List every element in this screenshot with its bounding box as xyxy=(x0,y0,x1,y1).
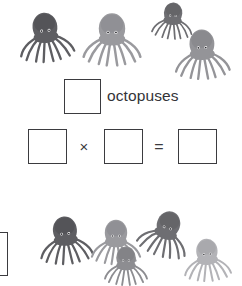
octopus-top-1 xyxy=(11,0,80,75)
octopus-bottom-5 xyxy=(175,232,239,283)
octopus-group-top xyxy=(0,0,242,78)
equals-sign: = xyxy=(149,138,169,156)
octopus-top-2 xyxy=(79,6,145,68)
octopus-bottom-4 xyxy=(100,242,152,286)
partial-answer-box-cropped[interactable] xyxy=(0,232,8,276)
multiplication-sign: × xyxy=(74,138,94,155)
count-answer-box[interactable] xyxy=(64,79,101,114)
octopus-top-4 xyxy=(167,23,237,81)
equation-operand-b-box[interactable] xyxy=(104,129,143,164)
octopus-group-bottom xyxy=(0,196,242,274)
equation-product-box[interactable] xyxy=(178,129,217,164)
equation-operand-a-box[interactable] xyxy=(28,129,67,164)
count-unit-label: octopuses xyxy=(107,87,179,105)
